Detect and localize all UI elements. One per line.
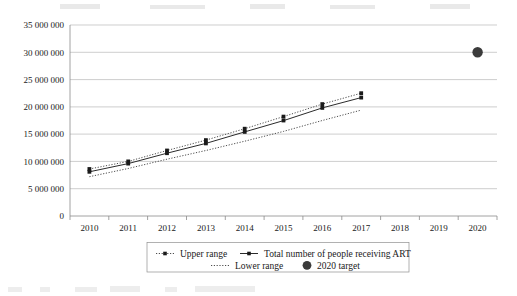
legend-label-total-art: Total number of people receiving ART xyxy=(264,249,411,259)
x-tick-label: 2014 xyxy=(236,223,255,233)
chart-figure: 35 000 000 30 000 000 25 000 000 20 000 … xyxy=(0,0,517,296)
gridlines xyxy=(70,25,497,189)
x-tick-label: 2017 xyxy=(352,223,371,233)
y-tick-label: 5 000 000 xyxy=(28,184,65,194)
lower-range-line xyxy=(89,110,361,177)
x-tick-label: 2010 xyxy=(80,223,99,233)
legend-label-2020-target: 2020 target xyxy=(317,261,360,271)
x-tick-label: 2019 xyxy=(430,223,449,233)
total-art-marker xyxy=(88,170,92,174)
y-tick-label: 20 000 000 xyxy=(24,102,65,112)
y-tick-label: 35 000 000 xyxy=(24,20,65,30)
series-lower-range xyxy=(89,110,361,177)
upper-range-marker xyxy=(320,102,324,106)
y-tick-label: 10 000 000 xyxy=(24,157,65,167)
legend-item-total-art: Total number of people receiving ART xyxy=(240,249,411,259)
x-tick-label: 2012 xyxy=(158,223,176,233)
y-tick-label: 30 000 000 xyxy=(24,48,65,58)
upper-range-marker xyxy=(282,115,286,119)
line-chart: 35 000 000 30 000 000 25 000 000 20 000 … xyxy=(0,0,517,296)
x-tick-label: 2013 xyxy=(197,223,216,233)
target-2020-point xyxy=(472,47,482,57)
upper-range-marker xyxy=(359,91,363,95)
x-axis-ticks xyxy=(70,216,497,220)
y-tick-label: 15 000 000 xyxy=(24,129,65,139)
x-tick-label: 2011 xyxy=(119,223,137,233)
y-tick-label: 0 xyxy=(60,211,65,221)
x-tick-label: 2020 xyxy=(469,223,488,233)
x-axis-tick-labels: 2010 2011 2012 2013 2014 2015 2016 2017 … xyxy=(80,223,487,233)
upper-range-marker xyxy=(204,138,208,142)
chart-legend: Upper range Total number of people recei… xyxy=(147,243,411,273)
legend-label-lower-range: Lower range xyxy=(235,261,283,271)
x-tick-label: 2015 xyxy=(275,223,294,233)
total-art-marker xyxy=(204,142,208,146)
target-2020-marker xyxy=(472,47,482,57)
legend-marker-circle xyxy=(303,261,312,270)
total-art-marker xyxy=(243,130,247,134)
y-axis-tick-labels: 35 000 000 30 000 000 25 000 000 20 000 … xyxy=(24,20,65,221)
total-art-marker xyxy=(359,96,363,100)
y-tick-label: 25 000 000 xyxy=(24,75,65,85)
total-art-marker xyxy=(320,106,324,110)
legend-label-upper-range: Upper range xyxy=(180,249,227,259)
series-upper-range xyxy=(88,91,364,171)
x-tick-label: 2018 xyxy=(391,223,410,233)
x-tick-label: 2016 xyxy=(313,223,332,233)
legend-marker-square xyxy=(163,252,167,256)
total-art-marker xyxy=(282,119,286,123)
total-art-marker xyxy=(165,151,169,155)
legend-marker-square xyxy=(247,252,251,256)
total-art-marker xyxy=(126,162,130,166)
